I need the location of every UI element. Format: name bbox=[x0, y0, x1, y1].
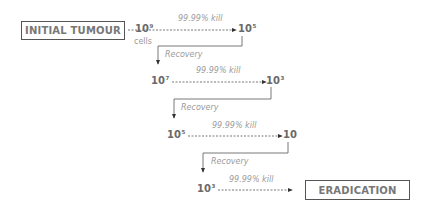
count-base: 10 bbox=[135, 23, 149, 34]
count-base: 10 bbox=[266, 75, 280, 86]
count-base: 10 bbox=[167, 129, 181, 140]
step3-to-count: 10 bbox=[283, 129, 297, 140]
step2-from-count: 107 bbox=[151, 75, 169, 86]
count-base: 10 bbox=[151, 75, 165, 86]
step1-from-count: 109 bbox=[135, 23, 153, 34]
kill-label-2: 99.99% kill bbox=[196, 66, 240, 75]
count-exponent: 3 bbox=[211, 183, 215, 189]
recovery-label-1: Recovery bbox=[165, 50, 202, 59]
count-exponent: 3 bbox=[280, 75, 284, 81]
recovery-label-2: Recovery bbox=[181, 103, 218, 112]
count-base: 10 bbox=[197, 183, 211, 194]
eradication-box: ERADICATION bbox=[305, 180, 410, 200]
step4-from-count: 103 bbox=[197, 183, 215, 194]
step2-to-count: 103 bbox=[266, 75, 284, 86]
kill-label-1: 99.99% kill bbox=[178, 14, 222, 23]
count-exponent: 5 bbox=[252, 23, 256, 29]
count-base: 10 bbox=[283, 129, 297, 140]
initial-tumour-box: INITIAL TUMOUR bbox=[21, 21, 125, 40]
count-exponent: 5 bbox=[181, 129, 185, 135]
kill-label-4: 99.99% kill bbox=[229, 175, 273, 184]
kill-label-3: 99.99% kill bbox=[212, 121, 256, 130]
recovery-label-3: Recovery bbox=[211, 157, 248, 166]
count-exponent: 9 bbox=[149, 23, 153, 29]
step3-from-count: 105 bbox=[167, 129, 185, 140]
step1-to-count: 105 bbox=[238, 23, 256, 34]
count-exponent: 7 bbox=[165, 75, 169, 81]
cells-label: cells bbox=[134, 37, 152, 46]
count-base: 10 bbox=[238, 23, 252, 34]
